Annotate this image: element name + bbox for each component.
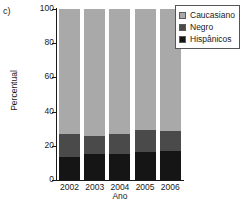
y-tick-label: 100: [40, 4, 54, 13]
x-axis-line: [56, 180, 184, 181]
bar-segment-negro: [84, 136, 105, 155]
legend-swatch-icon: [179, 12, 186, 19]
bar-segment-caucasiano: [109, 9, 130, 134]
bar-segment-hispânicos: [109, 154, 130, 180]
y-tick-label: 20: [45, 141, 54, 150]
legend-item-caucasiano: Caucasiano: [179, 9, 235, 21]
plot-area: 020406080100: [57, 9, 183, 180]
bar-segment-hispânicos: [84, 154, 105, 180]
legend-label: Hispânicos: [190, 35, 232, 44]
x-axis-title: Ano: [56, 192, 184, 201]
y-tick-label: 0: [49, 175, 54, 184]
legend-item-hispânicos: Hispânicos: [179, 33, 235, 45]
legend: CaucasianoNegroHispânicos: [175, 5, 240, 49]
bar-segment-hispânicos: [135, 152, 156, 180]
x-tick-label-2006: 2006: [158, 183, 183, 192]
bar-segment-hispânicos: [59, 157, 80, 180]
x-tick-label-2005: 2005: [133, 183, 158, 192]
bar-segment-caucasiano: [135, 9, 156, 130]
bar-segment-negro: [59, 134, 80, 157]
x-tick-label-2003: 2003: [82, 183, 107, 192]
legend-label: Caucasiano: [190, 11, 235, 20]
bar-2005: [135, 9, 156, 180]
y-tick-label: 60: [45, 72, 54, 81]
panel-label: c): [3, 6, 11, 16]
y-axis-title: Percentual: [10, 56, 19, 126]
bar-2002: [59, 9, 80, 180]
bar-2003: [84, 9, 105, 180]
legend-swatch-icon: [179, 24, 186, 31]
bar-segment-caucasiano: [59, 9, 80, 134]
legend-item-negro: Negro: [179, 21, 235, 33]
bar-segment-caucasiano: [84, 9, 105, 136]
figure-panel-c: c) Percentual Ano 020406080100 200220032…: [0, 0, 246, 207]
bar-segment-negro: [160, 131, 181, 151]
y-tick-label: 40: [45, 107, 54, 116]
x-tick-label-2004: 2004: [107, 183, 132, 192]
bar-segment-hispânicos: [160, 151, 181, 180]
legend-label: Negro: [190, 23, 213, 32]
bar-segment-negro: [135, 130, 156, 151]
y-tick-label: 80: [45, 38, 54, 47]
x-tick-label-2002: 2002: [57, 183, 82, 192]
bar-segment-negro: [109, 134, 130, 155]
bar-2004: [109, 9, 130, 180]
legend-swatch-icon: [179, 36, 186, 43]
